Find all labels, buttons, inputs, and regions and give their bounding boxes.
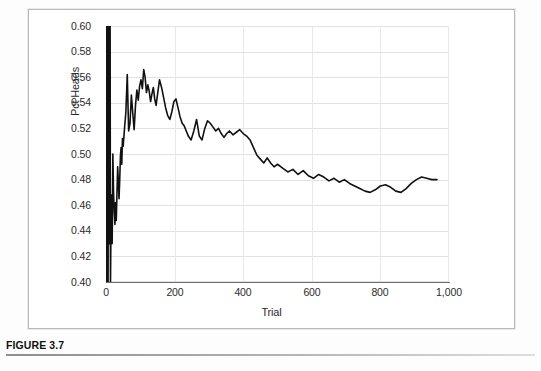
figure-caption-label: FIGURE 3.7 — [6, 339, 535, 351]
y-tick-label: 0.56 — [45, 72, 91, 83]
y-tick-label: 0.44 — [45, 225, 91, 236]
y-tick-label: 0.50 — [45, 149, 91, 160]
x-tick-label: 200 — [145, 287, 205, 298]
x-axis-label: Trial — [29, 306, 514, 318]
series-line-chart — [106, 26, 449, 282]
figure-frame: 0.60 0.58 0.56 0.54 0.52 0.50 0.48 0.46 … — [28, 9, 515, 329]
x-axis-baseline — [106, 282, 450, 283]
plot-region — [106, 26, 449, 282]
caption-divider — [6, 354, 535, 356]
x-tick-label: 800 — [350, 287, 410, 298]
x-tick-label: 600 — [282, 287, 342, 298]
y-tick-label: 0.60 — [45, 21, 91, 32]
series-pct-heads — [106, 26, 437, 282]
y-tick-label: 0.46 — [45, 200, 91, 211]
x-tick-label: 0 — [76, 287, 136, 298]
y-tick-label: 0.40 — [45, 277, 91, 288]
figure-page: 0.60 0.58 0.56 0.54 0.52 0.50 0.48 0.46 … — [0, 0, 541, 371]
y-tick-label: 0.42 — [45, 251, 91, 262]
x-tick-label: 400 — [213, 287, 273, 298]
y-tick-label: 0.58 — [45, 46, 91, 57]
figure-caption-block: FIGURE 3.7 — [6, 339, 535, 356]
y-tick-label: 0.52 — [45, 123, 91, 134]
y-axis-label: Pct Heads — [69, 67, 81, 116]
x-tick-label: 1,000 — [419, 287, 479, 298]
y-tick-label: 0.48 — [45, 174, 91, 185]
y-tick-label: 0.54 — [45, 97, 91, 108]
chart-area: 0.60 0.58 0.56 0.54 0.52 0.50 0.48 0.46 … — [29, 10, 514, 328]
